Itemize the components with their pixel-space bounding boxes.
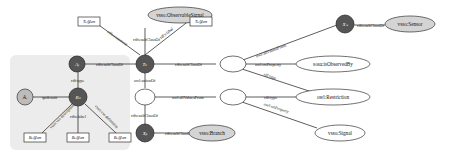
box-bk-desc-label: Bₖ@en (29, 135, 41, 140)
edge-label-qudt-unit: qudt:unit (42, 95, 58, 100)
edge-label-bk-label: rdfs:label (70, 114, 87, 119)
edge-label-restr-rdftype: rdf:type (263, 72, 277, 81)
edge-label-aj-subclass: rdfs:subClassOf (96, 62, 124, 67)
box-tk-comment-label: Tₖ@en (83, 19, 95, 24)
edge-label-tk-comment: rdfs:comment (107, 29, 130, 47)
node-label-owl-restriction: owl:Restriction (317, 94, 349, 100)
node-label-a-r: Aᵣ (22, 94, 28, 100)
edge-label-all-values-xs: owl:allValuesFrom (255, 42, 287, 58)
node-restriction-2 (220, 89, 246, 105)
node-label-sensor: vsso:Sensor (398, 21, 423, 27)
node-label-observed-by: sosa:isObservedBy (313, 61, 353, 67)
node-label-x-b: Xᵦ (142, 131, 148, 136)
edge-label-on-property-signal: owl:onProperty (263, 101, 290, 114)
node-blank-union (135, 89, 155, 105)
edge-label-tk-subclass-observable: rdfs:subClassOf (133, 37, 161, 42)
edge-label-restr2-rdftype: rdf:type (264, 95, 277, 100)
box-bk-label-label: Bₖ@en (72, 135, 84, 140)
box-bk-def-label: Bₖ@en (114, 135, 126, 140)
node-label-signal: vsso:Signal (328, 130, 352, 136)
edge-label-blank-subclass: rdfs:subClassOf (131, 113, 159, 118)
edge-label-xb-subclass-branch: rdfs:subClassOf (165, 131, 193, 136)
edge-label-on-property-observed: owl:onProperty (255, 62, 282, 67)
node-label-x-s: Xₛ (341, 22, 347, 27)
ontology-diagram: rdfs:comment rdfs:label rdfs:subClassOf … (0, 0, 463, 156)
edge-label-union-all-values: owl:allValuesFrom (172, 95, 205, 100)
edge-label-union-of: owl:unionOf (134, 78, 156, 83)
node-label-branch: vsso:Branch (199, 130, 225, 136)
edge-label-tk-subclass-restriction: rdfs:subClassOf (175, 62, 203, 67)
edge-label-aj-rdftype: rdf:type (71, 78, 84, 83)
edge-label-xs-subclass: rdfs:subClassOf (357, 23, 385, 28)
box-tk-label-label: Tₖ@en (195, 19, 207, 24)
node-restriction-1 (220, 56, 246, 72)
